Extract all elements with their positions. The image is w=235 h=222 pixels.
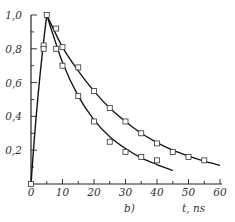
square-marker: [170, 149, 175, 154]
y-tick-label: 0,2: [5, 144, 22, 156]
square-marker: [139, 131, 144, 136]
square-marker: [186, 154, 191, 159]
x-tick-label: 50: [182, 186, 196, 198]
y-tick-label: 1,0: [5, 9, 22, 21]
lower-curve: [47, 15, 173, 170]
square-marker: [54, 26, 59, 31]
panel-label: b): [124, 202, 135, 214]
square-marker: [107, 105, 112, 110]
square-marker: [29, 182, 34, 187]
square-marker: [202, 158, 207, 163]
tick-labels: 01020304050600,20,40,60,81,0: [5, 9, 227, 198]
x-axis-label: t, ns: [182, 202, 206, 214]
peak-marker: [44, 13, 49, 18]
x-tick-label: 0: [28, 186, 35, 198]
x-tick-label: 20: [86, 186, 101, 198]
square-marker: [123, 119, 128, 124]
fit-curves: [31, 15, 220, 184]
square-marker: [76, 94, 81, 99]
x-tick-label: 30: [119, 186, 133, 198]
square-marker: [60, 45, 65, 50]
x-tick-label: 40: [149, 186, 164, 198]
square-marker: [107, 139, 112, 144]
square-marker: [155, 141, 160, 146]
data-markers: [29, 13, 207, 187]
x-tick-label: 60: [213, 186, 227, 198]
x-tick-label: 10: [56, 186, 70, 198]
square-marker: [92, 89, 97, 94]
square-marker: [54, 46, 59, 51]
y-tick-label: 0,8: [5, 43, 22, 55]
square-marker: [92, 119, 97, 124]
y-tick-label: 0,4: [5, 110, 22, 122]
square-marker: [41, 46, 46, 51]
square-marker: [155, 158, 160, 163]
square-marker: [123, 149, 128, 154]
square-marker: [60, 63, 65, 68]
square-marker: [139, 154, 144, 159]
y-tick-label: 0,6: [5, 77, 22, 89]
upper-curve: [47, 15, 220, 165]
square-marker: [76, 65, 81, 70]
decay-chart: 01020304050600,20,40,60,81,0 b) t, ns: [0, 0, 235, 222]
